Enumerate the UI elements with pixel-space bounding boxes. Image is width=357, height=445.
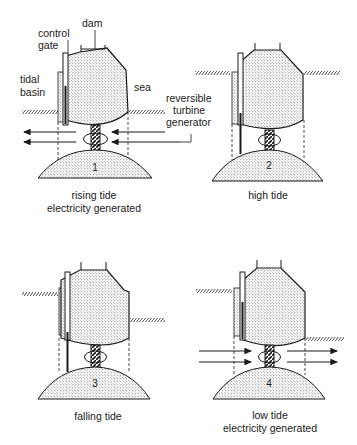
dam-body [66,48,128,125]
tidal-power-diagram: dam control gate tidal basin sea reversi… [0,0,357,445]
panel-caption-line1: falling tide [74,410,121,422]
panel-caption-line1: high tide [248,189,288,201]
ground-hatch-left [22,110,58,114]
label-control: control [38,27,70,39]
panel-caption-line2: electricity generated [47,202,141,214]
panel-caption-line1: rising tide [72,189,117,201]
dam-body [240,50,303,129]
panel-low-tide: 4 low tide electricity generated [196,260,344,434]
label-dam: dam [82,17,103,29]
label-turbine: turbine [173,104,205,116]
label-generator: generator [166,116,211,128]
panel-caption-line1: low tide [252,409,288,421]
control-gate [65,272,70,340]
turbine-shaft [91,125,100,153]
panel-rising-tide: dam control gate tidal basin sea reversi… [20,17,212,214]
panel-number: 1 [92,162,98,173]
panel-high-tide: 2 high tide [195,43,340,201]
dam-body [61,270,129,345]
panel-number: 4 [266,378,272,389]
label-basin: basin [20,86,45,98]
panel-falling-tide: 3 falling tide [22,262,165,422]
dam-body [243,268,305,346]
label-gate: gate [38,39,59,51]
label-reversible: reversible [166,92,212,104]
panel-number: 3 [92,378,98,389]
label-tidal: tidal [20,73,39,85]
panel-number: 2 [266,160,272,171]
label-sea: sea [134,81,151,93]
ground-hatch-right [129,110,165,114]
panel-caption-line2: electricity generated [223,422,317,434]
